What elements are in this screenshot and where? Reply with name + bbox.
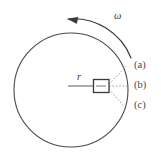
angular-velocity-label: ω [114,11,121,22]
option-label-c: (c) [134,100,146,111]
radius-label: r [77,72,81,83]
option-label-a: (a) [134,60,146,71]
rotation-arrowhead [68,17,78,23]
dotted-line-c [109,89,125,107]
hoop-circle [14,33,128,147]
option-label-b: (b) [134,80,146,91]
figure-container: ω r (a) (b) (c) [0,0,161,164]
dotted-line-a [109,66,127,84]
rotation-arc [68,19,131,58]
